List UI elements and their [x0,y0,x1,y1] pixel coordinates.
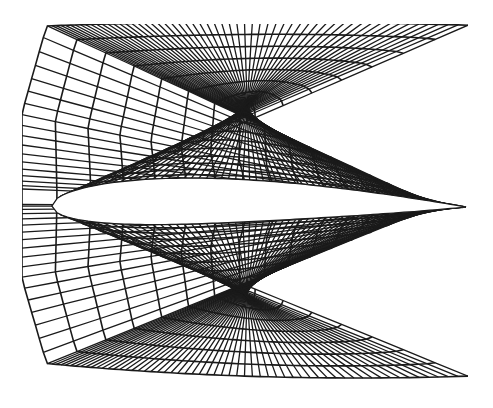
airfoil-mesh-figure [0,0,493,408]
